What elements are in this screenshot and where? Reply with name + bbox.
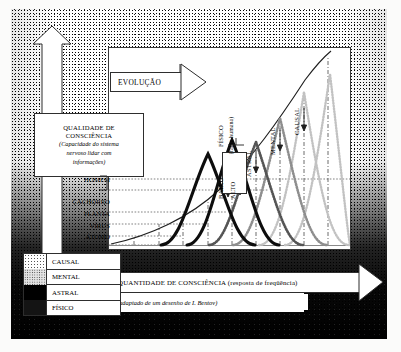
qbox-sub1: (Capacidade do sistema [59, 141, 119, 148]
swatch-astral [24, 285, 46, 300]
legend-label-mental: MENTAL [52, 273, 80, 280]
quality-of-consciousness-box: QUALIDADE DE CONSCIÊNCIA (Capacidade do … [34, 113, 144, 177]
credit-line: (adaptado de um desenho de I. Bentov) [108, 294, 308, 310]
y-label-cachorro: CACHORRO [73, 198, 110, 205]
legend-item-mental: MENTAL [47, 270, 120, 286]
legend-label-causal: CAUSAL [52, 258, 79, 265]
legend-item-astral: ASTRAL [47, 285, 120, 301]
qbox-line2: CONSCIÊNCIA [66, 132, 113, 139]
evolution-label: EVOLUÇÃO [118, 78, 161, 87]
label-alto: ALTO [229, 182, 236, 199]
label-faixa-humana: (faixa humana) [228, 117, 234, 154]
curve-causal [259, 74, 350, 245]
legend-rows: CAUSAL MENTAL ASTRAL FÍSICO [47, 254, 120, 315]
legend-swatches [24, 254, 47, 315]
qbox-sub3: informações) [73, 159, 106, 166]
y-label-virus: VÍRUS [90, 222, 110, 229]
y-axis-labels: HOMEM CACHORRO PLANTA VÍRUS ÁTOMO [52, 176, 110, 248]
figure-root: f1 f2 f3 f4 f5 f6 f7 f8 f9 QUALIDADE DE … [0, 0, 401, 352]
legend-item-causal: CAUSAL [47, 254, 120, 270]
label-baixo: BAIXO [217, 177, 224, 199]
swatch-fisico [24, 300, 46, 315]
x-axis-arrow-band: QUANTIDADE DE CONSCIÊNCIA (resposta de f… [108, 272, 360, 293]
label-mental: MENTAL [269, 127, 276, 155]
label-causal: CAUSAL [293, 108, 300, 135]
y-label-atomo: ÁTOMO [85, 233, 110, 240]
y-label-planta: PLANTA [84, 210, 110, 217]
credit-text: (adaptado de um desenho de I. Bentov) [117, 299, 217, 306]
label-astral: ASTRAL [245, 151, 252, 177]
legend-item-fisico: FÍSICO [47, 301, 120, 316]
qbox-line1: QUALIDADE DE [63, 124, 115, 131]
legend: CAUSAL MENTAL ASTRAL FÍSICO [23, 253, 121, 316]
qbox-sub2: nervoso lidar com [66, 150, 111, 157]
legend-label-astral: ASTRAL [52, 289, 78, 296]
label-fisico: FÍSICO [217, 125, 224, 147]
evolution-arrow-body: EVOLUÇÃO [110, 72, 182, 92]
swatch-mental [24, 269, 46, 284]
swatch-causal [24, 254, 46, 269]
legend-label-fisico: FÍSICO [52, 304, 74, 311]
x-axis-label: QUANTIDADE DE CONSCIÊNCIA (resposta de f… [118, 279, 298, 286]
y-label-homem: HOMEM [84, 176, 110, 183]
